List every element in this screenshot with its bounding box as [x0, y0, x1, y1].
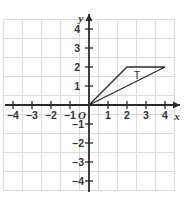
y-tick-label: –3 — [72, 156, 84, 168]
y-tick-label: 2 — [74, 61, 80, 73]
x-axis-arrow-icon — [173, 102, 180, 109]
x-tick-label: 3 — [143, 109, 149, 121]
x-tick-label: 4 — [162, 109, 168, 121]
x-tick-label: –3 — [26, 109, 38, 121]
y-axis-arrow-icon — [86, 14, 93, 21]
coordinate-plane-svg: –4 –3 –2 –1 1 2 3 4 4 3 2 1 –1 –2 –3 –4 … — [0, 0, 194, 198]
y-tick-label: –2 — [72, 137, 84, 149]
x-tick-label: –4 — [7, 109, 19, 121]
triangle-t-outline — [89, 67, 165, 105]
x-tick-label: –2 — [45, 109, 57, 121]
y-tick-label: 1 — [74, 80, 80, 92]
origin-label: O — [78, 109, 86, 121]
y-axis-name: y — [77, 12, 84, 24]
coordinate-grid-figure: –4 –3 –2 –1 1 2 3 4 4 3 2 1 –1 –2 –3 –4 … — [0, 0, 194, 198]
x-tick-label: 2 — [124, 109, 130, 121]
y-tick-label: 3 — [74, 42, 80, 54]
y-tick-label: 4 — [74, 23, 80, 35]
y-tick-label: –4 — [72, 175, 84, 187]
triangle-t-label: T — [134, 70, 140, 81]
x-axis-name: x — [173, 110, 180, 122]
x-tick-label: 1 — [105, 109, 111, 121]
